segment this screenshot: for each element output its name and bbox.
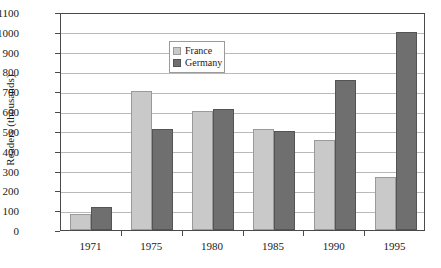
bar-germany-1975	[152, 129, 173, 230]
bar-france-1990	[314, 140, 335, 230]
y-axis-tick-label: 400	[0, 147, 19, 157]
gridline	[61, 53, 424, 54]
legend-swatch-germany-icon	[173, 59, 181, 67]
gridline	[61, 73, 424, 74]
y-axis-tick-label: 600	[0, 107, 19, 117]
bar-germany-1971	[91, 207, 112, 230]
bar-france-1995	[375, 177, 396, 231]
y-axis-tick-label: 700	[0, 87, 19, 97]
y-axis-tick-label: 1100	[0, 8, 19, 18]
x-axis-tick-mark	[182, 231, 183, 236]
legend-label-germany: Germany	[185, 58, 222, 68]
y-axis-tick-label: 1000	[0, 28, 19, 38]
gridline	[61, 172, 424, 173]
gridline	[61, 152, 424, 153]
x-axis-tick-label-1975: 1975	[121, 240, 181, 253]
bar-france-1980	[192, 111, 213, 230]
bar-france-1971	[70, 214, 91, 230]
legend: France Germany	[169, 41, 225, 73]
x-axis-tick-mark	[303, 231, 304, 236]
y-axis-tick-label: 500	[0, 127, 19, 137]
gridline	[61, 113, 424, 114]
gridline	[61, 33, 424, 34]
legend-swatch-france-icon	[173, 47, 181, 55]
y-axis-tick-label: 100	[0, 206, 19, 216]
bar-germany-1985	[274, 131, 295, 230]
gridline	[61, 212, 424, 213]
y-axis-tick-label: 800	[0, 67, 19, 77]
bar-chart: Readers (thousands) 01002003004005006007…	[0, 0, 441, 268]
gridline	[61, 93, 424, 94]
plot-area: France Germany	[60, 13, 425, 231]
y-axis-tick-label: 0	[0, 226, 19, 236]
bar-germany-1990	[335, 80, 356, 230]
x-axis-tick-mark	[364, 231, 365, 236]
gridline	[61, 132, 424, 133]
legend-label-france: France	[185, 46, 212, 56]
bar-germany-1980	[213, 109, 234, 230]
y-axis-tick-label: 200	[0, 186, 19, 196]
x-axis-tick-label-1995: 1995	[365, 240, 425, 253]
y-axis-tick-label: 900	[0, 48, 19, 58]
x-axis-tick-label-1990: 1990	[304, 240, 364, 253]
bar-germany-1995	[396, 32, 417, 230]
legend-item-germany: Germany	[173, 57, 221, 68]
y-axis-tick-mark	[55, 231, 60, 232]
bar-france-1975	[131, 91, 152, 230]
bar-france-1985	[253, 129, 274, 230]
x-axis-tick-mark	[121, 231, 122, 236]
x-axis-tick-label-1971: 1971	[60, 240, 120, 253]
x-axis-tick-mark	[243, 231, 244, 236]
legend-item-france: France	[173, 45, 221, 56]
y-axis-tick-label: 300	[0, 167, 19, 177]
x-axis-tick-label-1985: 1985	[243, 240, 303, 253]
gridline	[61, 192, 424, 193]
x-axis-tick-label-1980: 1980	[182, 240, 242, 253]
